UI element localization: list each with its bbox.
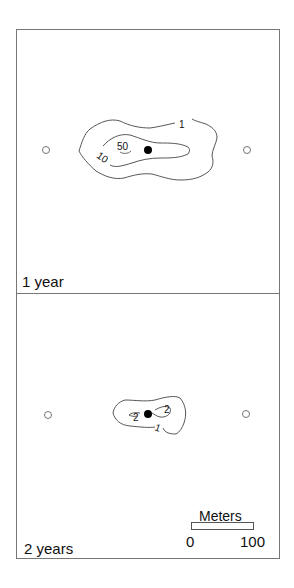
left-well-marker [45, 412, 52, 419]
scale-bar-min-label: 0 [186, 534, 194, 549]
contour-figure: 1 10 50 2 2 1 1 year 2 years Meters 0 10… [0, 0, 294, 588]
contour-label-10: 10 [95, 150, 111, 166]
center-well-marker [144, 146, 152, 154]
panel-label-2-years: 2 years [24, 541, 73, 556]
contour-label-2-right: 2 [164, 404, 170, 415]
left-well-marker [43, 147, 50, 154]
contour-label-50: 50 [117, 141, 129, 152]
right-well-marker [243, 411, 250, 418]
contour-label-1: 1 [179, 119, 185, 130]
contour-label-1: 1 [153, 422, 162, 434]
center-well-marker [144, 410, 152, 418]
contour-label-2-left: 2 [133, 412, 139, 423]
scale-bar-max-label: 100 [240, 534, 265, 549]
panel-label-1-year: 1 year [22, 274, 64, 289]
panel-1-year: 1 10 50 [43, 119, 251, 180]
right-well-marker [244, 147, 251, 154]
figure-canvas: 1 10 50 2 2 1 [0, 0, 294, 588]
scale-bar-title: Meters [199, 509, 242, 523]
